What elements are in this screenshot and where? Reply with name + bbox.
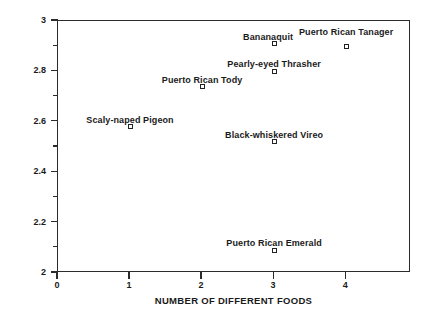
y-axis-tick-label: 3 bbox=[0, 15, 46, 25]
x-axis-tick bbox=[56, 272, 57, 279]
x-axis-title: NUMBER OF DIFFERENT FOODS bbox=[57, 295, 410, 306]
data-point-marker[interactable] bbox=[272, 69, 277, 74]
data-point-marker[interactable] bbox=[272, 139, 277, 144]
data-point-marker[interactable] bbox=[272, 41, 277, 46]
x-axis-tick bbox=[345, 272, 346, 279]
data-point-label: Bananaquit bbox=[243, 32, 293, 42]
plot-area: Scaly-naped PigeonPuerto Rican TodyBanan… bbox=[57, 20, 410, 272]
data-point-label: Puerto Rican Emerald bbox=[226, 238, 322, 248]
x-axis-tick-label: 4 bbox=[330, 280, 360, 290]
data-point-label: Black-whiskered Vireo bbox=[225, 130, 323, 140]
y-axis-tick-label: 2.2 bbox=[0, 217, 46, 227]
scatter-plot-figure: BIRD HEIGHT DIVERSITY NUMBER OF DIFFEREN… bbox=[0, 0, 429, 317]
y-axis-tick-label: 2.6 bbox=[0, 116, 46, 126]
data-point-marker[interactable] bbox=[344, 44, 349, 49]
data-point-label: Puerto Rican Tanager bbox=[299, 27, 393, 37]
data-point-label: Scaly-naped Pigeon bbox=[86, 115, 173, 125]
data-point-marker[interactable] bbox=[272, 248, 277, 253]
x-axis-tick-label: 2 bbox=[186, 280, 216, 290]
x-axis-tick bbox=[128, 272, 129, 279]
data-point-label: Pearly-eyed Thrasher bbox=[227, 59, 321, 69]
x-axis-tick-label: 1 bbox=[114, 280, 144, 290]
x-axis-tick bbox=[273, 272, 274, 279]
y-axis-tick-label: 2 bbox=[0, 267, 46, 277]
data-point-marker[interactable] bbox=[200, 84, 205, 89]
x-axis-tick-label: 0 bbox=[42, 280, 72, 290]
data-point-label: Puerto Rican Tody bbox=[162, 75, 243, 85]
y-axis-tick-label: 2.8 bbox=[0, 65, 46, 75]
x-axis-tick-label: 3 bbox=[258, 280, 288, 290]
y-axis-tick-label: 2.4 bbox=[0, 166, 46, 176]
x-axis-tick bbox=[200, 272, 201, 279]
data-point-marker[interactable] bbox=[128, 124, 133, 129]
